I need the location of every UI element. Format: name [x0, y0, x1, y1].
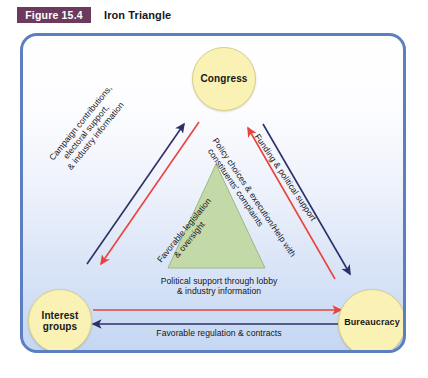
node-congress-label: Congress	[201, 73, 248, 85]
iron-triangle-diagram: Congress Interest groups Bureaucracy Cam…	[20, 33, 406, 353]
node-bureaucracy[interactable]: Bureaucracy	[338, 289, 406, 353]
node-interest-groups-label: Interest groups	[42, 310, 79, 333]
node-interest-groups-label-line1: Interest	[42, 310, 79, 321]
edge-label-political-support-line2: & industry information	[119, 286, 319, 296]
edge-label-political-support: Political support through lobby & indust…	[119, 276, 319, 296]
figure-header: Figure 15.4 Iron Triangle	[0, 0, 428, 30]
node-bureaucracy-label: Bureaucracy	[344, 317, 400, 329]
node-interest-groups[interactable]: Interest groups	[28, 289, 92, 353]
figure-title: Iron Triangle	[104, 7, 171, 23]
figure-number-badge: Figure 15.4	[17, 7, 91, 23]
edge-label-favorable-regulation: Favorable regulation & contracts	[119, 328, 319, 338]
edge-label-favorable-regulation-text: Favorable regulation & contracts	[119, 328, 319, 338]
node-congress[interactable]: Congress	[192, 47, 256, 111]
edge-label-political-support-line1: Political support through lobby	[119, 276, 319, 286]
node-interest-groups-label-line2: groups	[43, 321, 78, 332]
